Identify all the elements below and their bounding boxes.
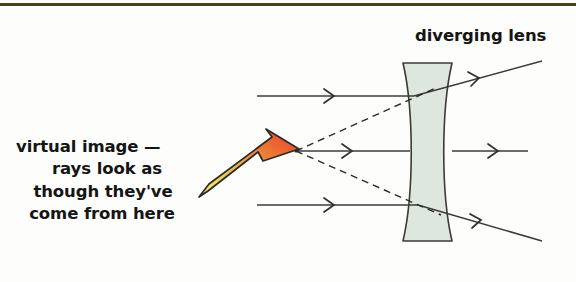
diverging-lens-label: diverging lens [415, 26, 546, 45]
virtual-focus-point [294, 149, 297, 152]
figure-canvas: diverging lens virtual image — rays look… [0, 0, 576, 282]
outgoing-ray-direction-markers [468, 72, 498, 228]
virtual-image-caption-line-1: virtual image — [8, 136, 196, 158]
virtual-image-caption-line-3: though they've [8, 181, 196, 203]
diverging-lens-shape [403, 63, 452, 241]
virtual-image-caption-line-4: come from here [8, 203, 196, 225]
virtual-image-caption-line-2: rays look as [8, 158, 196, 180]
virtual-image-pointer-arrow [199, 129, 299, 197]
virtual-image-caption: virtual image — rays look as though they… [8, 136, 196, 226]
